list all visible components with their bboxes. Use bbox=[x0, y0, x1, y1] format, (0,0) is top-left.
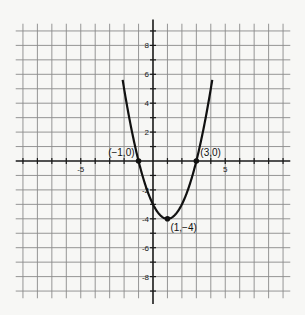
y-tick-label: 2 bbox=[145, 128, 150, 137]
point-marker bbox=[194, 158, 200, 164]
x-tick-label: 5 bbox=[223, 165, 228, 174]
parabola-graph: -558642-2-4-6-8 (−1,0)(3,0)(1,−4) bbox=[0, 0, 305, 315]
point-label: (1,−4) bbox=[170, 222, 196, 233]
point-marker bbox=[136, 158, 142, 164]
x-tick-label: -5 bbox=[77, 165, 85, 174]
y-tick-label: 8 bbox=[145, 41, 150, 50]
y-tick-label: -8 bbox=[142, 273, 150, 282]
y-tick-label: -4 bbox=[142, 215, 150, 224]
point-label: (3,0) bbox=[200, 147, 221, 158]
point-marker bbox=[165, 216, 171, 222]
y-tick-label: 4 bbox=[145, 99, 150, 108]
axes: -558642-2-4-6-8 bbox=[16, 19, 291, 304]
y-tick-label: 6 bbox=[145, 70, 150, 79]
y-tick-label: -6 bbox=[142, 244, 150, 253]
point-label: (−1,0) bbox=[108, 147, 134, 158]
